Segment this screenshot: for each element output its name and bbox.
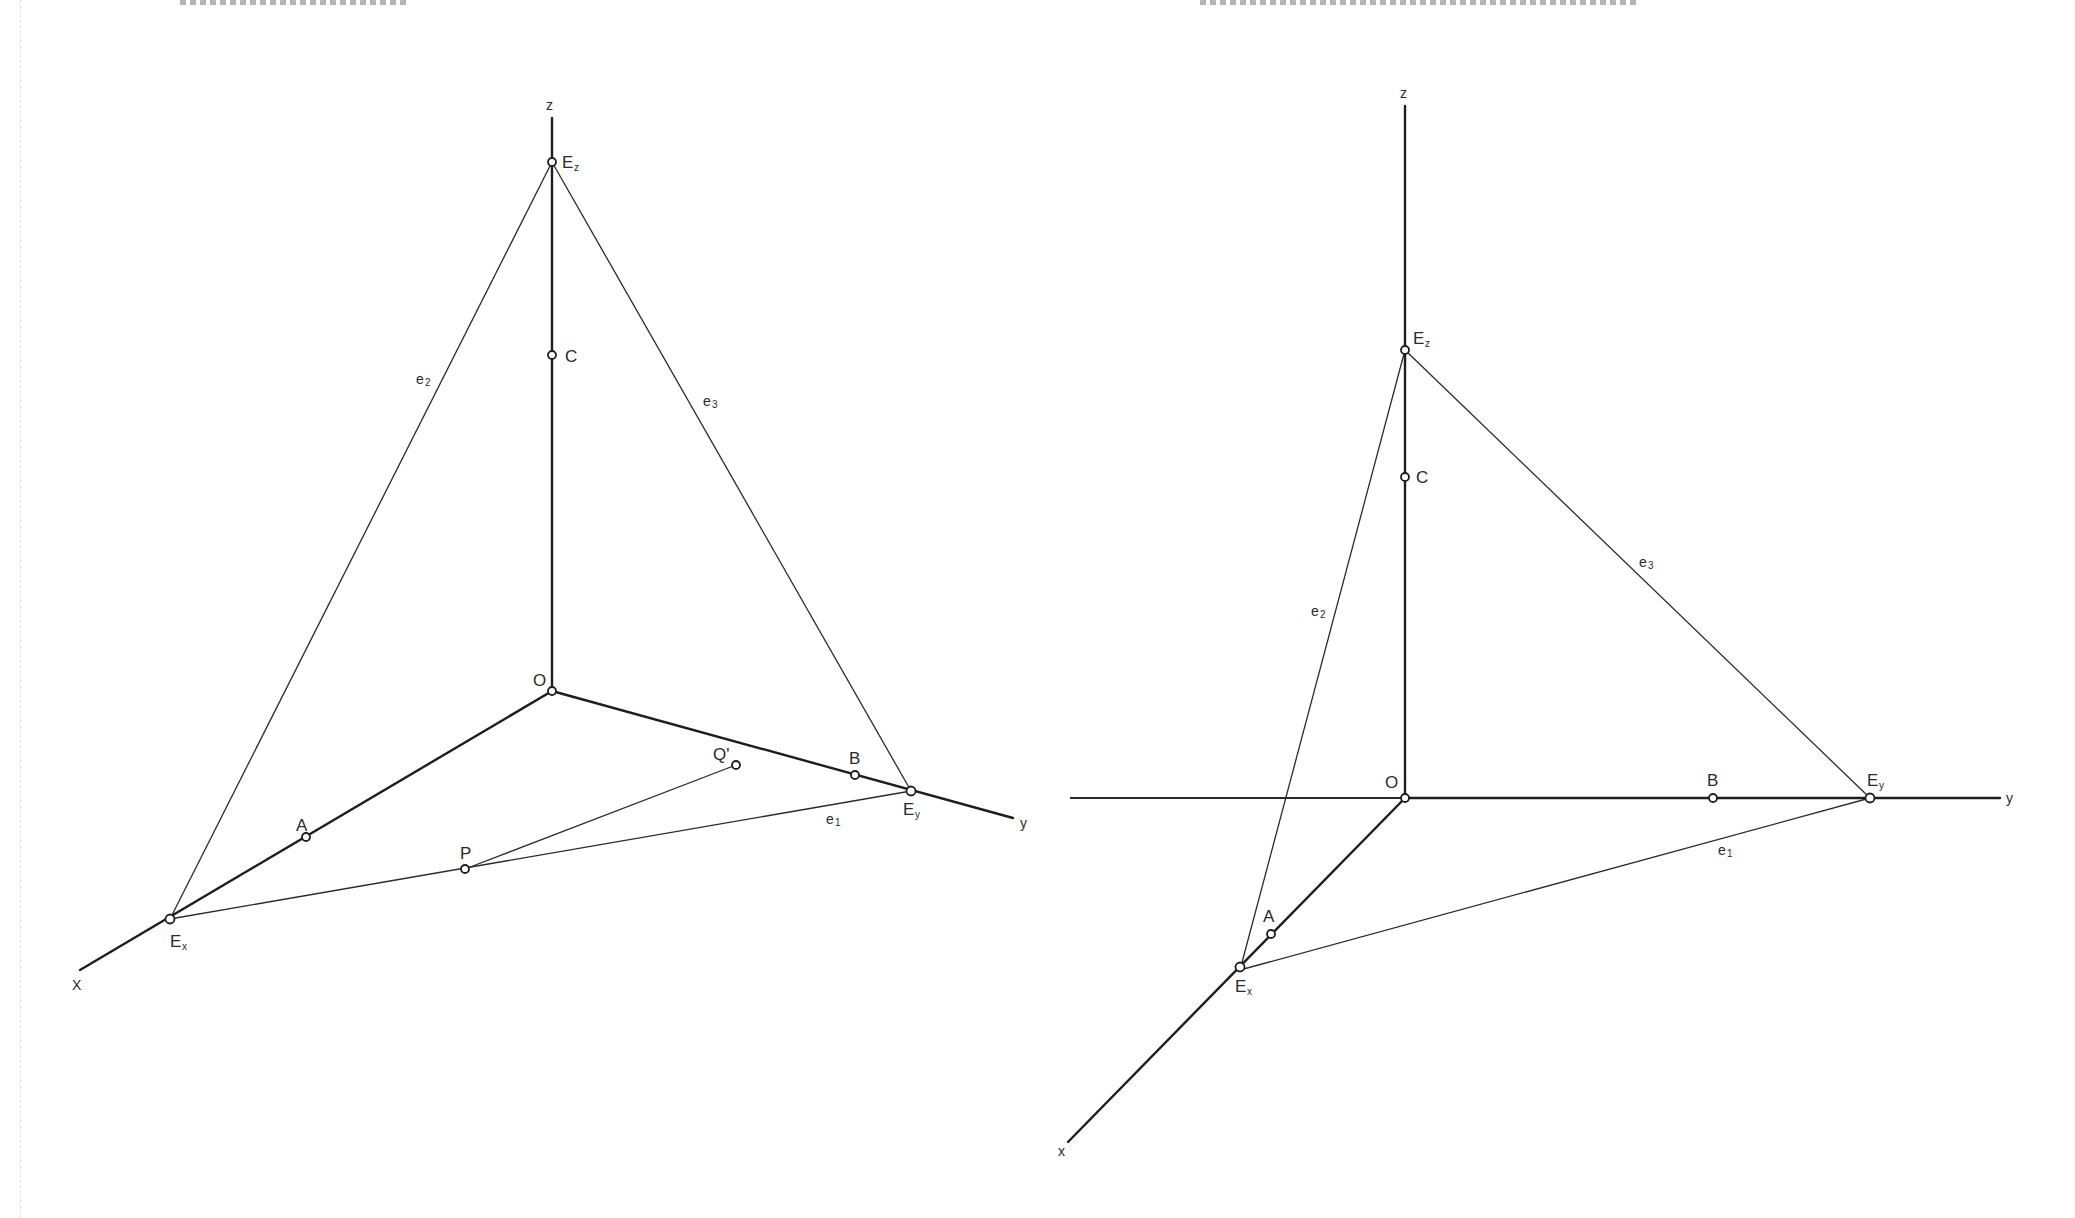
right-label-ey: E y bbox=[1867, 771, 1884, 791]
right-point-ez bbox=[1401, 346, 1409, 354]
right-label-a: A bbox=[1263, 907, 1275, 926]
right-z-label: z bbox=[1400, 85, 1407, 101]
left-y-label: y bbox=[1020, 815, 1027, 831]
left-z-label: z bbox=[546, 97, 553, 113]
svg-text:e: e bbox=[1311, 603, 1319, 619]
right-label-ex: E x bbox=[1235, 977, 1252, 997]
right-point-ex bbox=[1236, 963, 1245, 972]
svg-text:x: x bbox=[182, 941, 187, 952]
svg-text:e: e bbox=[703, 393, 711, 409]
left-point-b bbox=[851, 771, 859, 779]
figure-left: z X y O E z C A E x P Q' B E y e 2 e 3 e bbox=[72, 97, 1027, 993]
svg-text:1: 1 bbox=[835, 817, 841, 828]
left-label-a: A bbox=[296, 816, 308, 835]
right-label-e1: e 1 bbox=[1718, 842, 1733, 859]
diagram-canvas: z X y O E z C A E x P Q' B E y e 2 e 3 e bbox=[0, 0, 2075, 1218]
svg-text:1: 1 bbox=[1727, 848, 1733, 859]
left-label-ex: E x bbox=[170, 932, 187, 952]
svg-text:E: E bbox=[1235, 977, 1246, 996]
svg-text:y: y bbox=[915, 809, 920, 820]
left-point-q bbox=[732, 761, 740, 769]
svg-text:2: 2 bbox=[1320, 609, 1326, 620]
right-point-a bbox=[1267, 930, 1275, 938]
right-point-c bbox=[1401, 473, 1409, 481]
svg-text:y: y bbox=[1879, 780, 1884, 791]
right-trace-e1 bbox=[1240, 798, 1870, 970]
right-x-label: x bbox=[1058, 1143, 1065, 1159]
svg-text:E: E bbox=[1413, 329, 1424, 348]
svg-text:e: e bbox=[826, 811, 834, 827]
left-label-b: B bbox=[849, 749, 860, 768]
left-trace-e3 bbox=[552, 162, 911, 791]
left-point-ex bbox=[166, 915, 175, 924]
svg-text:3: 3 bbox=[712, 399, 718, 410]
right-label-e3: e 3 bbox=[1639, 554, 1654, 571]
svg-text:z: z bbox=[1425, 338, 1430, 349]
svg-text:E: E bbox=[1867, 771, 1878, 790]
right-label-ez: E z bbox=[1413, 329, 1430, 349]
left-trace-e1 bbox=[170, 791, 911, 919]
left-label-e1: e 1 bbox=[826, 811, 841, 828]
left-x-label: X bbox=[72, 977, 82, 993]
svg-text:z: z bbox=[574, 162, 579, 173]
left-label-e2: e 2 bbox=[416, 371, 431, 388]
svg-text:2: 2 bbox=[425, 377, 431, 388]
left-point-ey bbox=[907, 787, 916, 796]
left-label-c: C bbox=[565, 347, 577, 366]
left-y-axis bbox=[552, 691, 1013, 818]
left-x-axis bbox=[80, 691, 552, 970]
right-trace-e3 bbox=[1405, 350, 1870, 798]
figure-right: z y x O E z C B E y A E x e 2 e 3 e 1 bbox=[1058, 85, 2013, 1159]
svg-text:e: e bbox=[416, 371, 424, 387]
svg-text:e: e bbox=[1639, 554, 1647, 570]
right-point-b bbox=[1709, 794, 1717, 802]
svg-text:E: E bbox=[562, 153, 573, 172]
left-point-p bbox=[461, 865, 469, 873]
svg-text:3: 3 bbox=[1648, 560, 1654, 571]
left-label-p: P bbox=[460, 844, 471, 863]
right-label-b: B bbox=[1707, 771, 1718, 790]
svg-text:x: x bbox=[1247, 986, 1252, 997]
left-point-c bbox=[548, 351, 556, 359]
left-point-ez bbox=[548, 158, 556, 166]
left-label-e3: e 3 bbox=[703, 393, 718, 410]
left-label-q: Q' bbox=[713, 745, 729, 764]
right-label-e2: e 2 bbox=[1311, 603, 1326, 620]
left-origin-label: O bbox=[533, 671, 546, 690]
right-origin-label: O bbox=[1385, 773, 1398, 792]
left-point-o bbox=[548, 687, 556, 695]
right-point-ey bbox=[1866, 794, 1875, 803]
left-trace-e2 bbox=[170, 162, 552, 919]
left-line-pq bbox=[465, 765, 736, 869]
right-point-o bbox=[1401, 794, 1409, 802]
left-label-ey: E y bbox=[903, 800, 920, 820]
svg-text:e: e bbox=[1718, 842, 1726, 858]
right-trace-e2 bbox=[1240, 350, 1405, 970]
left-label-ez: E z bbox=[562, 153, 579, 173]
right-label-c: C bbox=[1416, 468, 1428, 487]
right-y-label: y bbox=[2006, 790, 2013, 806]
svg-text:E: E bbox=[170, 932, 181, 951]
svg-text:E: E bbox=[903, 800, 914, 819]
